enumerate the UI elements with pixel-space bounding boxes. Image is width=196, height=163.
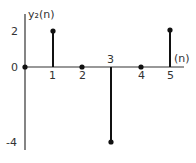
x-tick-5: 5 <box>167 69 174 82</box>
y-tick-2: 2 <box>11 25 18 38</box>
marker-n1 <box>50 28 55 33</box>
x-tick-4: 4 <box>138 69 145 82</box>
x-tick-3: 3 <box>107 53 114 66</box>
marker-n3 <box>108 139 113 144</box>
y-tick-minus4: -4 <box>6 136 17 149</box>
x-tick-2: 2 <box>79 69 86 82</box>
y-tick-0: 0 <box>11 61 18 74</box>
marker-n5 <box>167 27 172 32</box>
stem-plot: y₂(n) (n) 2 0 -4 1 2 3 4 5 <box>0 0 196 163</box>
marker-n0 <box>22 64 27 69</box>
x-tick-1: 1 <box>49 69 56 82</box>
x-axis-label: (n) <box>174 52 190 65</box>
y-axis-label: y₂(n) <box>28 8 54 21</box>
